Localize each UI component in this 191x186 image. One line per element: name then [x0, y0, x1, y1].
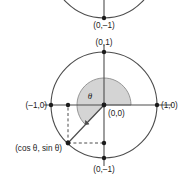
- unit-circle-diagram: (0,–1): [0, 0, 191, 186]
- point-dot-terminal: [66, 141, 71, 146]
- top-circle-group: [51, 0, 157, 20]
- point-dot-right: [155, 103, 159, 107]
- label-right-point: (1,0): [161, 101, 178, 110]
- main-circle-group: [44, 45, 172, 166]
- label-top-point: (0,1): [96, 38, 113, 47]
- label-origin: (0,0): [108, 109, 125, 118]
- label-bottom-point: (0,–1): [93, 165, 115, 174]
- top-circle-bottom-label: (0,–1): [93, 21, 115, 30]
- top-circle-bottom-point-dot: [102, 16, 106, 20]
- label-angle-theta: θ: [88, 91, 93, 101]
- point-dot-bottom: [102, 156, 106, 160]
- point-dot-cos-on-x-axis: [66, 103, 70, 107]
- point-dot-left: [49, 103, 53, 107]
- figure-canvas: (0,–1): [0, 0, 191, 186]
- point-dot-sin-on-y-axis: [102, 141, 106, 145]
- label-terminal-point: (cos θ, sin θ): [15, 144, 62, 153]
- label-left-point: (–1,0): [26, 101, 48, 110]
- point-dot-origin: [102, 103, 107, 108]
- point-dot-top: [102, 50, 106, 54]
